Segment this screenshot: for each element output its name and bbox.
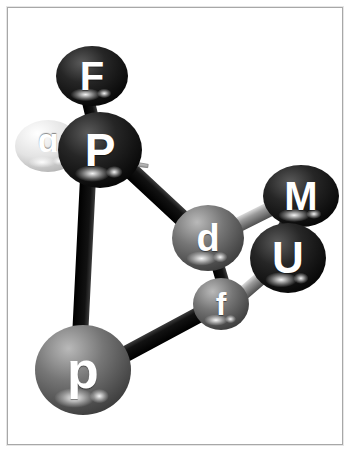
node-U[interactable] (250, 223, 326, 293)
bond-shaft (118, 305, 208, 363)
node-specular-highlight (106, 166, 123, 178)
node-specular-highlight (278, 208, 310, 222)
node-specular-highlight (225, 315, 236, 323)
node-d[interactable] (172, 205, 244, 271)
node-p[interactable] (35, 325, 131, 415)
node-specular-highlight (204, 314, 228, 325)
node-specular-highlight (54, 388, 94, 408)
node-f[interactable] (193, 278, 249, 330)
bond-p-f (118, 305, 208, 363)
bond-P-p (72, 178, 96, 339)
node-specular-highlight (306, 209, 321, 219)
figure-canvas: FɒPdMUfp (0, 0, 352, 455)
node-specular-highlight (265, 272, 297, 287)
node-P[interactable] (58, 112, 142, 188)
node-specular-highlight (75, 165, 110, 182)
scene-svg (0, 0, 352, 455)
bond-shaft (72, 178, 96, 339)
node-specular-highlight (186, 251, 216, 266)
node-specular-highlight (90, 389, 109, 403)
node-specular-highlight (293, 273, 308, 284)
node-F[interactable] (56, 46, 128, 106)
node-layer (15, 46, 339, 415)
node-M[interactable] (263, 165, 339, 227)
node-specular-highlight (28, 156, 56, 167)
node-specular-highlight (213, 252, 227, 263)
node-specular-highlight (70, 88, 100, 101)
node-specular-highlight (97, 89, 111, 99)
molecule-scene: FɒPdMUfp (0, 0, 352, 455)
